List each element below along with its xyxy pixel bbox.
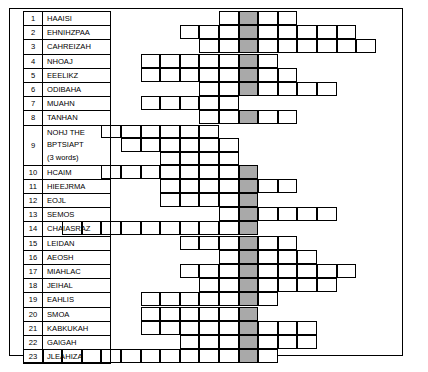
grid-cell[interactable] [219,165,239,179]
grid-cell[interactable] [258,349,278,363]
grid-cell[interactable] [258,179,278,193]
grid-cell[interactable] [278,25,298,39]
grid-cell[interactable] [160,193,180,207]
grid-cell[interactable] [160,152,180,165]
grid-cell[interactable] [160,68,180,82]
grid-cell[interactable] [180,25,200,39]
grid-cell[interactable] [278,321,298,335]
grid-cell[interactable] [219,68,239,82]
grid-cell[interactable] [219,207,239,221]
grid-cell[interactable] [180,165,200,179]
grid-cell[interactable] [141,307,161,321]
grid-cell[interactable] [337,25,357,39]
grid-cell-shaded[interactable] [239,236,259,250]
grid-cell[interactable] [297,321,317,335]
grid-cell[interactable] [199,307,219,321]
grid-cell[interactable] [180,236,200,250]
grid-cell[interactable] [199,179,219,193]
grid-cell[interactable] [219,278,239,292]
grid-cell[interactable] [278,179,298,193]
grid-cell[interactable] [199,96,219,110]
grid-cell[interactable] [297,82,317,96]
grid-cell-shaded[interactable] [239,193,259,207]
grid-cell[interactable] [219,307,239,321]
grid-cell[interactable] [160,307,180,321]
grid-cell[interactable] [258,39,278,53]
grid-cell[interactable] [160,292,180,306]
grid-cell[interactable] [121,221,141,235]
grid-cell[interactable] [180,152,200,165]
grid-cell[interactable] [297,250,317,264]
grid-cell[interactable] [258,11,278,25]
grid-cell[interactable] [219,193,239,207]
grid-cell[interactable] [219,110,239,124]
grid-cell[interactable] [141,165,161,179]
grid-cell[interactable] [278,207,298,221]
grid-cell-shaded[interactable] [239,292,259,306]
grid-cell[interactable] [258,292,278,306]
grid-cell[interactable] [141,349,161,363]
grid-cell[interactable] [199,349,219,363]
grid-cell[interactable] [199,39,219,53]
grid-cell[interactable] [219,221,239,235]
grid-cell[interactable] [219,152,239,165]
grid-cell[interactable] [219,179,239,193]
grid-cell[interactable] [219,264,239,278]
grid-cell[interactable] [278,110,298,124]
grid-cell[interactable] [160,125,180,138]
grid-cell[interactable] [180,349,200,363]
grid-cell[interactable] [317,39,337,53]
grid-cell[interactable] [199,264,219,278]
grid-cell[interactable] [141,96,161,110]
grid-cell-shaded[interactable] [239,68,259,82]
grid-cell[interactable] [121,125,141,138]
grid-cell[interactable] [199,278,219,292]
grid-cell[interactable] [258,82,278,96]
grid-cell[interactable] [199,335,219,349]
grid-cell[interactable] [258,250,278,264]
grid-cell[interactable] [199,152,219,165]
grid-cell[interactable] [258,335,278,349]
grid-cell[interactable] [317,82,337,96]
grid-cell[interactable] [160,165,180,179]
grid-cell[interactable] [180,264,200,278]
grid-cell[interactable] [278,39,298,53]
grid-cell[interactable] [278,236,298,250]
grid-cell-shaded[interactable] [239,307,259,321]
grid-cell[interactable] [160,349,180,363]
grid-cell-shaded[interactable] [239,110,259,124]
grid-cell-shaded[interactable] [239,335,259,349]
grid-cell[interactable] [258,25,278,39]
grid-cell-shaded[interactable] [239,278,259,292]
grid-cell-shaded[interactable] [239,207,259,221]
grid-cell[interactable] [160,221,180,235]
grid-cell[interactable] [317,25,337,39]
grid-cell[interactable] [199,236,219,250]
grid-cell[interactable] [219,335,239,349]
grid-cell[interactable] [141,125,161,138]
grid-cell[interactable] [160,96,180,110]
grid-cell[interactable] [297,207,317,221]
grid-cell-shaded[interactable] [239,165,259,179]
grid-cell[interactable] [199,138,219,151]
grid-cell[interactable] [180,321,200,335]
grid-cell-shaded[interactable] [239,250,259,264]
grid-cell[interactable] [141,221,161,235]
grid-cell[interactable] [199,82,219,96]
grid-cell[interactable] [180,125,200,138]
grid-cell[interactable] [141,292,161,306]
grid-cell[interactable] [141,321,161,335]
grid-cell[interactable] [278,264,298,278]
grid-cell[interactable] [258,68,278,82]
grid-cell[interactable] [278,335,298,349]
grid-cell[interactable] [219,349,239,363]
grid-cell[interactable] [219,138,239,151]
grid-cell[interactable] [219,54,239,68]
grid-cell[interactable] [356,39,376,53]
grid-cell[interactable] [160,54,180,68]
grid-cell[interactable] [278,11,298,25]
grid-cell[interactable] [258,110,278,124]
grid-cell[interactable] [180,54,200,68]
grid-cell-shaded[interactable] [239,264,259,278]
grid-cell[interactable] [199,221,219,235]
